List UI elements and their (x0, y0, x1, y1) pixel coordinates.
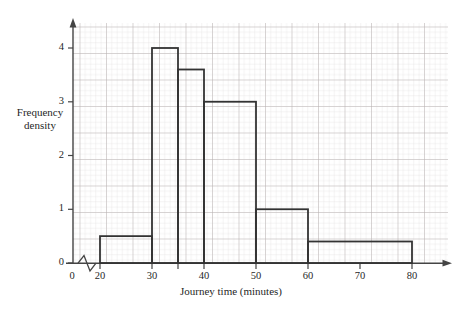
y-axis-title: Frequency density (11, 106, 69, 131)
x-tick-label-20: 20 (90, 270, 110, 281)
graph-paper-grid (73, 23, 448, 264)
y-tick-label-1: 1 (50, 202, 64, 213)
x-tick-label-50: 50 (246, 270, 266, 281)
x-tick-label-60: 60 (298, 270, 318, 281)
frequency-density-histogram (0, 0, 458, 314)
x-tick-label-70: 70 (350, 270, 370, 281)
y-tick-label-2: 2 (50, 149, 64, 160)
x-tick-label-80: 80 (402, 270, 422, 281)
x-tick-label-0: 0 (62, 270, 82, 281)
y-tick-label-4: 4 (50, 41, 64, 52)
y-axis-title-line-2: density (11, 119, 69, 132)
y-axis-title-line-1: Frequency (11, 106, 69, 119)
y-tick-label-3: 3 (50, 95, 64, 106)
y-axis-arrow-icon (70, 18, 77, 28)
histogram-figure: Frequency density Journey time (minutes)… (0, 0, 458, 314)
x-tick-label-30: 30 (142, 270, 162, 281)
x-axis-title: Journey time (minutes) (146, 285, 316, 298)
y-tick-label-0: 0 (50, 256, 64, 267)
x-tick-label-40: 40 (194, 270, 214, 281)
